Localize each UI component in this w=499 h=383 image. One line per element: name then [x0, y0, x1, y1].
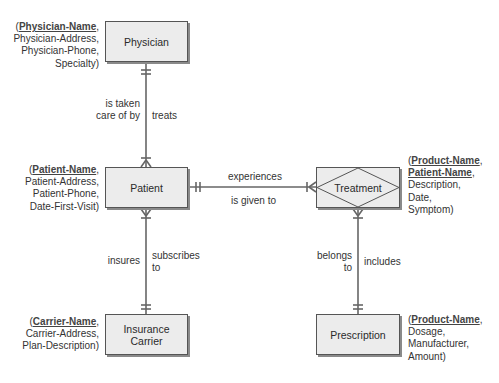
rel-label-belongs-to: belongs to [317, 250, 352, 274]
rel-label-includes: includes [364, 256, 401, 268]
attribute: Dosage, [408, 326, 482, 338]
entity-physician[interactable]: Physician [105, 21, 188, 62]
attribute: Description, [408, 179, 482, 191]
attribute: Carrier-Address, [22, 328, 99, 340]
rel-label-is-given-to: is given to [231, 195, 276, 207]
attributes-insurance-carrier: (Carrier-Name, Carrier-Address, Plan-Des… [22, 316, 99, 353]
attribute: Date, [408, 192, 482, 204]
attribute: Patient-Phone, [25, 188, 99, 200]
entity-treatment-label: Treatment [334, 182, 381, 194]
entity-prescription[interactable]: Prescription [316, 314, 400, 355]
primary-key: Patient-Name [408, 167, 472, 178]
attribute: Amount) [408, 351, 482, 363]
attributes-physician: (Physician-Name, Physician-Address, Phys… [13, 21, 99, 70]
primary-key: Physician-Name [19, 21, 96, 32]
entity-prescription-label: Prescription [330, 329, 385, 341]
primary-key: Carrier-Name [33, 316, 96, 327]
attribute: Patient-Address, [25, 176, 99, 188]
attributes-treatment: (Product-Name, Patient-Name, Description… [408, 155, 482, 216]
entity-insurance-carrier[interactable]: Insurance Carrier [105, 314, 188, 355]
attribute: Specialty) [13, 58, 99, 70]
primary-key: Patient-Name [32, 164, 96, 175]
rel-label-experiences: experiences [228, 171, 282, 183]
entity-patient-label: Patient [130, 182, 163, 194]
entity-insurance-carrier-label: Insurance Carrier [123, 323, 169, 347]
attributes-prescription: (Product-Name, Dosage, Manufacturer, Amo… [408, 314, 482, 363]
entity-physician-label: Physician [124, 36, 169, 48]
attribute: Date-First-Visit) [25, 201, 99, 213]
entity-treatment[interactable]: Treatment [316, 167, 400, 208]
attributes-patient: (Patient-Name, Patient-Address, Patient-… [25, 164, 99, 213]
attribute: Symptom) [408, 204, 482, 216]
attribute: Manufacturer, [408, 338, 482, 350]
attribute: Physician-Phone, [13, 45, 99, 57]
rel-label-subscribes-to: subscribes to [152, 250, 200, 274]
primary-key: Product-Name [411, 155, 479, 166]
attribute: Physician-Address, [13, 33, 99, 45]
attribute: Plan-Description) [22, 340, 99, 352]
rel-label-treats: treats [152, 110, 177, 122]
entity-patient[interactable]: Patient [105, 167, 188, 208]
rel-label-is-taken-care-of-by: is taken care of by [96, 98, 140, 122]
primary-key: Product-Name [411, 314, 479, 325]
rel-label-insures: insures [108, 255, 140, 267]
